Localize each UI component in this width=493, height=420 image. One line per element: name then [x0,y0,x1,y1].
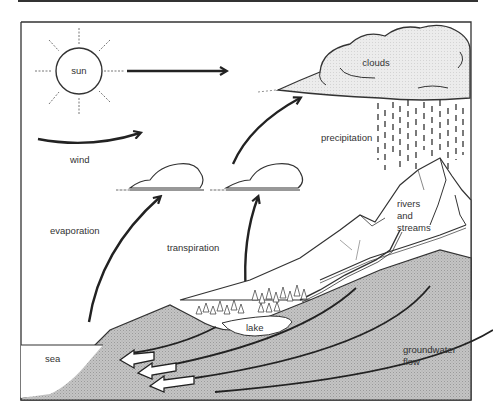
rivers-label-line1: rivers [397,198,420,209]
wind-arrow-icon [38,133,140,143]
groundwater-label-line2: flow [403,356,420,367]
sea-label: sea [45,353,61,364]
precipitation-label: precipitation [321,132,372,143]
clouds-label: clouds [362,57,390,68]
evaporation-label: evaporation [50,225,100,236]
precipitation-icon [378,100,463,175]
water-cycle-diagram: sun wind clouds precipitation [0,0,493,420]
rivers-label-line3: streams [397,222,431,233]
rain-cloud-icon: clouds [258,25,470,100]
lake-label: lake [246,322,263,333]
small-cloud-icon-1 [116,164,204,190]
sun-icon: sun [35,28,124,114]
small-cloud-icon-2 [210,164,303,190]
sun-label: sun [71,65,86,76]
evaporation-to-cloud-arrow-icon [233,98,300,164]
rivers-label-line2: and [397,210,413,221]
wind-label: wind [69,154,90,165]
transpiration-label: transpiration [167,242,219,253]
evaporation-arrow-icon [89,197,160,322]
groundwater-label-line1: groundwater [403,344,456,355]
